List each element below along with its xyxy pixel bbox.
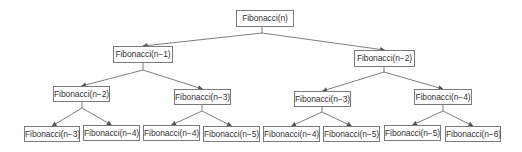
arrow-icon — [82, 108, 112, 125]
arrow-icon — [82, 70, 144, 86]
fibonacci-node-n7: Fibonacci(n−3) — [24, 126, 80, 142]
fibonacci-node-n4: Fibonacci(n−3) — [174, 89, 231, 105]
arrow-icon — [143, 33, 262, 46]
fibonacci-node-n11: Fibonacci(n−4) — [263, 126, 320, 142]
arrow-icon — [413, 111, 444, 125]
fibonacci-node-n10: Fibonacci(n−5) — [203, 126, 260, 142]
fibonacci-node-n5: Fibonacci(n−3) — [294, 91, 351, 107]
arrow-icon — [323, 72, 385, 91]
arrow-icon — [172, 111, 203, 125]
arrow-icon — [384, 72, 443, 89]
fibonacci-node-n2: Fibonacci(n−2) — [354, 50, 415, 67]
arrow-icon — [262, 33, 385, 50]
arrow-icon — [52, 108, 82, 126]
fibonacci-node-n6: Fibonacci(n−4) — [414, 89, 472, 105]
arrow-icon — [292, 112, 323, 126]
fibonacci-node-n0: Fibonacci(n) — [236, 10, 294, 27]
fibonacci-node-n8: Fibonacci(n−4) — [83, 125, 140, 141]
fibonacci-node-n9: Fibonacci(n−4) — [143, 125, 200, 141]
fibonacci-node-n12: Fibonacci(n−5) — [323, 126, 380, 142]
arrow-icon — [443, 111, 473, 126]
arrow-icon — [202, 111, 232, 126]
fibonacci-node-n1: Fibonacci(n−1) — [113, 46, 173, 63]
arrow-icon — [143, 70, 203, 89]
fibonacci-node-n14: Fibonacci(n−6) — [445, 126, 501, 142]
fibonacci-node-n3: Fibonacci(n−2) — [53, 86, 110, 102]
fibonacci-node-n13: Fibonacci(n−5) — [384, 125, 441, 141]
arrow-icon — [322, 112, 352, 126]
